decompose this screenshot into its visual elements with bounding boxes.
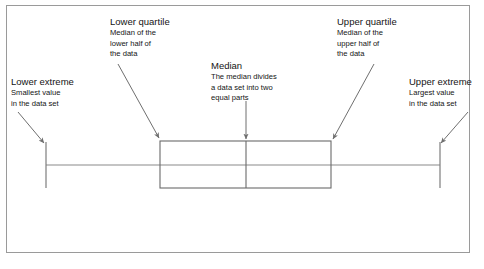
annotation-line: Median of the xyxy=(110,28,170,39)
annotation-lower-extreme-title: Lower extreme xyxy=(11,76,74,88)
annotation-upper-extreme-title: Upper extreme xyxy=(409,76,472,88)
annotation-upper-extreme: Upper extreme Largest value in the data … xyxy=(409,76,472,109)
annotation-upper-quartile-title: Upper quartile xyxy=(337,16,397,28)
lower-quartile-arrow xyxy=(118,64,159,138)
annotation-median-title: Median xyxy=(211,60,277,72)
annotation-line: a data set into two xyxy=(211,83,277,94)
lower-extreme-arrow xyxy=(18,112,44,143)
annotation-upper-extreme-body: Largest value in the data set xyxy=(409,88,472,109)
annotation-lower-quartile-title: Lower quartile xyxy=(110,16,170,28)
annotation-median: Median The median divides a data set int… xyxy=(211,60,277,104)
annotation-line: Smallest value xyxy=(11,88,74,99)
annotation-upper-quartile: Upper quartile Median of the upper half … xyxy=(337,16,397,60)
annotation-line: in the data set xyxy=(409,99,472,110)
annotation-line: the data xyxy=(337,49,397,60)
annotation-line: equal parts xyxy=(211,93,277,104)
upper-extreme-arrow xyxy=(441,112,468,143)
annotation-line: Median of the xyxy=(337,28,397,39)
annotation-line: in the data set xyxy=(11,99,74,110)
upper-quartile-arrow xyxy=(333,64,374,139)
annotation-upper-quartile-body: Median of the upper half of the data xyxy=(337,28,397,60)
annotation-median-body: The median divides a data set into two e… xyxy=(211,72,277,104)
annotation-lower-extreme-body: Smallest value in the data set xyxy=(11,88,74,109)
annotation-lower-quartile-body: Median of the lower half of the data xyxy=(110,28,170,60)
diagram-canvas: Lower extreme Smallest value in the data… xyxy=(0,0,484,269)
box-plot-graphic xyxy=(0,0,484,269)
annotation-line: lower half of xyxy=(110,39,170,50)
annotation-line: the data xyxy=(110,49,170,60)
annotation-line: upper half of xyxy=(337,39,397,50)
annotation-line: The median divides xyxy=(211,72,277,83)
annotation-lower-extreme: Lower extreme Smallest value in the data… xyxy=(11,76,74,109)
annotation-line: Largest value xyxy=(409,88,472,99)
annotation-lower-quartile: Lower quartile Median of the lower half … xyxy=(110,16,170,60)
